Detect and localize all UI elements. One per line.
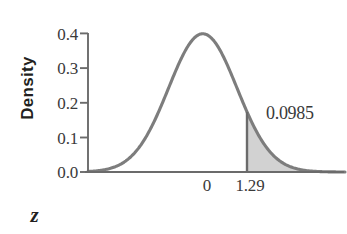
y-tick-label-0-2: 0.2 bbox=[44, 94, 78, 114]
y-tick-label-0-0: 0.0 bbox=[44, 163, 78, 183]
y-axis-title: Density bbox=[18, 40, 38, 136]
x-tick-label-0: 0 bbox=[195, 176, 219, 196]
x-axis-title: z bbox=[0, 203, 208, 228]
y-tick-label-0-1: 0.1 bbox=[44, 129, 78, 149]
y-axis-ticks bbox=[80, 33, 88, 172]
normal-distribution-figure: 0.4 0.3 0.2 0.1 0.0 0 1.29 Density z 0.0… bbox=[0, 0, 347, 234]
y-tick-label-0-3: 0.3 bbox=[44, 59, 78, 79]
x-tick-label-1-29: 1.29 bbox=[226, 176, 274, 196]
y-tick-label-0-4: 0.4 bbox=[44, 25, 78, 45]
tail-area-label: 0.0985 bbox=[266, 103, 314, 124]
